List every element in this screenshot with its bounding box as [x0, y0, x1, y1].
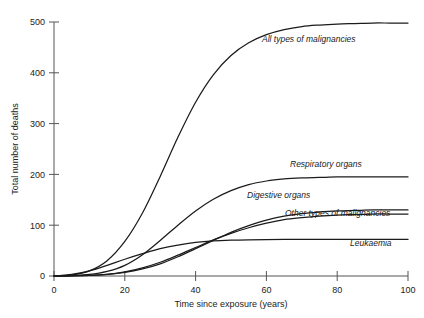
y-tick-label: 200 [30, 170, 45, 180]
y-axis-title: Total number of deaths [10, 103, 20, 195]
y-tick-label: 0 [40, 271, 45, 281]
curve-label-other-types-of-malignancies: Other types of malignancies [285, 208, 391, 218]
y-tick-label: 400 [30, 68, 45, 78]
curve-label-all-types-of-malignancies: All types of malignancies [261, 34, 356, 44]
x-axis-title: Time since exposure (years) [174, 299, 287, 309]
x-tick-label: 100 [400, 285, 415, 295]
curve-label-digestive-organs: Digestive organs [247, 190, 311, 200]
y-tick-label: 100 [30, 221, 45, 231]
curve-label-leukaemia: Leukaemia [350, 238, 392, 248]
curve-label-respiratory-organs: Respiratory organs [290, 159, 363, 169]
x-tick-label: 20 [120, 285, 130, 295]
chart-figure: 0100200300400500020406080100Time since e… [0, 0, 424, 318]
x-tick-label: 0 [51, 285, 56, 295]
y-tick-label: 300 [30, 119, 45, 129]
x-tick-label: 60 [261, 285, 271, 295]
x-tick-label: 80 [332, 285, 342, 295]
y-tick-label: 500 [30, 17, 45, 27]
x-tick-label: 40 [191, 285, 201, 295]
line-chart: 0100200300400500020406080100Time since e… [0, 0, 424, 318]
